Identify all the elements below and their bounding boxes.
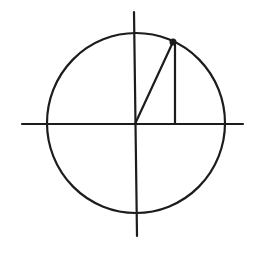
point-on-circle <box>170 39 177 46</box>
diagram-svg <box>0 0 256 255</box>
unit-circle-diagram <box>0 0 256 255</box>
radius-line <box>135 42 173 124</box>
